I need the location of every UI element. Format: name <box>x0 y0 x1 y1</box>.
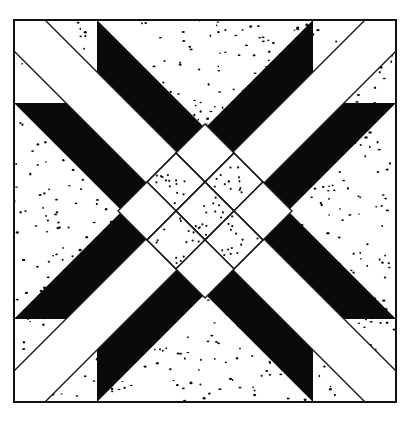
quilt-block-diagram <box>0 0 410 421</box>
quilt-block <box>14 20 396 403</box>
